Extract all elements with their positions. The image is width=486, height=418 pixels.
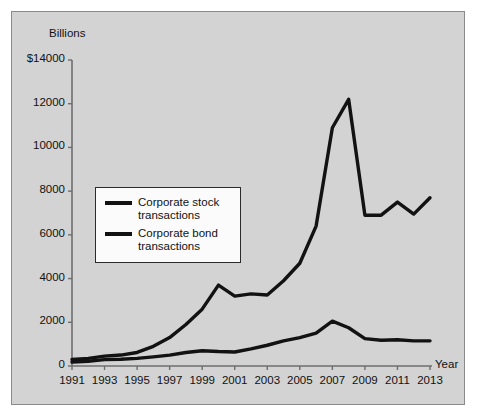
legend-swatch-stock-line xyxy=(105,201,132,205)
legend-label-bond: Corporate bond transactions xyxy=(138,227,218,253)
y-axis-tick-label: 12000 xyxy=(33,96,65,108)
legend-label-bond-line1: Corporate bond xyxy=(138,227,218,239)
x-axis-tick-label: 1995 xyxy=(121,374,153,386)
legend-label-stock: Corporate stock transactions xyxy=(138,196,219,222)
x-axis-tick-label: 1993 xyxy=(89,374,121,386)
x-axis-tick-label: 1991 xyxy=(56,374,88,386)
legend-item-bond: Corporate bond transactions xyxy=(105,227,218,253)
x-axis-tick-label: 1997 xyxy=(154,374,186,386)
x-axis-tick-label: 2005 xyxy=(284,374,316,386)
chart-legend: Corporate stock transactions Corporate b… xyxy=(95,187,241,263)
legend-label-stock-line2: transactions xyxy=(138,209,200,221)
line-chart-plot xyxy=(0,0,486,418)
y-axis-tick-label: 4000 xyxy=(39,271,65,283)
y-axis-tick-label: 8000 xyxy=(39,183,65,195)
y-axis-tick-label: 6000 xyxy=(39,227,65,239)
y-axis-tick-label: 0 xyxy=(59,358,65,370)
legend-item-stock: Corporate stock transactions xyxy=(105,196,219,222)
y-axis-tick-label: $14000 xyxy=(27,52,65,64)
x-axis-tick-label: 2011 xyxy=(381,374,413,386)
legend-label-bond-line2: transactions xyxy=(138,240,200,252)
x-axis-title: Year xyxy=(435,358,458,370)
y-axis-tick-label: 2000 xyxy=(39,314,65,326)
legend-swatch-bond-line xyxy=(105,232,132,236)
x-axis-tick-label: 2013 xyxy=(414,374,446,386)
x-axis-tick-label: 1999 xyxy=(186,374,218,386)
y-axis-tick-label: 10000 xyxy=(33,139,65,151)
chart-figure: Billions Year $1400012000100008000600040… xyxy=(0,0,486,418)
y-axis-title: Billions xyxy=(49,27,85,39)
x-axis-tick-label: 2001 xyxy=(219,374,251,386)
x-axis-tick-label: 2009 xyxy=(349,374,381,386)
x-axis-tick-label: 2007 xyxy=(316,374,348,386)
legend-label-stock-line1: Corporate stock xyxy=(138,196,219,208)
x-axis-tick-label: 2003 xyxy=(251,374,283,386)
